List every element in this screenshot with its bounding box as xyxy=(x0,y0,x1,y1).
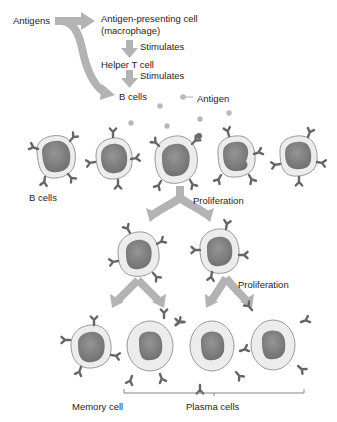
stimulates-label-1: Stimulates xyxy=(140,41,184,52)
antigen-legend-marker xyxy=(180,94,193,100)
proliferation-arrow-2-left xyxy=(110,280,166,308)
b-cell-5 xyxy=(271,128,326,186)
apc-label-line2: (macrophage) xyxy=(101,25,160,36)
apc-label-line1: Antigen-presenting cell xyxy=(101,13,198,24)
antigens-label: Antigens xyxy=(13,15,50,26)
memory-cell-label: Memory cell xyxy=(72,401,123,412)
helper-t-cell-label: Helper T cell xyxy=(101,59,154,70)
stimulates-arrow-1 xyxy=(121,40,138,58)
stimulates-arrow-2 xyxy=(121,70,138,88)
stimulates-label-2: Stimulates xyxy=(140,70,184,81)
b-cell-3-activated xyxy=(151,133,202,190)
plasma-cells-label: Plasma cells xyxy=(186,401,239,412)
diagram-canvas xyxy=(0,0,337,422)
proliferation-label-2: Proliferation xyxy=(238,279,289,290)
b-cell-4 xyxy=(214,127,263,184)
b-cell-daughter-2 xyxy=(192,220,248,281)
plasma-cell-2 xyxy=(190,321,234,371)
plasma-cells-bracket xyxy=(124,389,304,396)
proliferation-label-1: Proliferation xyxy=(193,195,244,206)
plasma-cell-3 xyxy=(251,320,295,370)
memory-cell xyxy=(62,317,120,377)
plasma-cell-1 xyxy=(127,321,173,371)
b-cells-target-label: B cells xyxy=(119,91,147,102)
b-cell-1 xyxy=(29,132,78,185)
b-cells-row-label: B cells xyxy=(29,192,57,203)
free-antigens xyxy=(128,103,231,128)
b-cell-2 xyxy=(86,129,140,189)
antigen-legend-label: Antigen xyxy=(197,93,229,104)
b-cell-daughter-1 xyxy=(109,224,166,282)
